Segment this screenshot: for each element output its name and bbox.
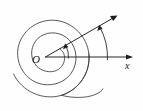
spiral-figure-svg: x O (0, 0, 143, 111)
spiral-figure-container: x O (0, 0, 143, 111)
x-axis-label: x (124, 60, 130, 71)
figure-background (0, 0, 143, 111)
origin-label: O (32, 53, 40, 65)
